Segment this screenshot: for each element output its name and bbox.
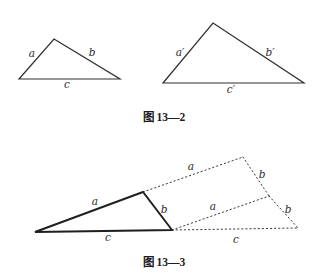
figure-13-2: a b c a′ b′ c′ 图 13—2 [19, 23, 304, 123]
dotted-c-extension-label: c [233, 233, 239, 245]
figure-13-3-caption: 图 13—3 [143, 255, 186, 268]
figures-canvas: a b c a′ b′ c′ 图 13—2 a b c [0, 0, 325, 280]
figure-13-3: a b c a b a b c 图 13—3 [35, 157, 298, 268]
large-triangle-side-b-label: b′ [265, 46, 275, 58]
dotted-a-top-label: a [188, 160, 194, 172]
small-triangle-outline [19, 39, 120, 79]
dotted-side-b-right [269, 196, 298, 228]
figure-13-2-caption: 图 13—2 [143, 110, 186, 123]
small-triangle-side-a-label: a [29, 47, 35, 59]
dotted-side-c-extension [172, 228, 298, 230]
dotted-a-middle-label: a [210, 200, 216, 212]
dotted-side-a-middle [172, 196, 269, 230]
large-triangle-side-a-label: a′ [176, 46, 185, 58]
large-triangle-side-c-label: c′ [227, 83, 236, 95]
solid-triangle-side-b-label: b [161, 203, 168, 215]
solid-triangle-outline [35, 192, 172, 232]
dotted-b-right-label: b [285, 203, 292, 215]
small-triangle-side-b-label: b [89, 46, 96, 58]
solid-triangle-side-c-label: c [105, 231, 111, 243]
small-triangle-side-c-label: c [64, 78, 70, 90]
textbook-figure-page: a b c a′ b′ c′ 图 13—2 a b c [0, 0, 325, 280]
solid-triangle-side-a-label: a [92, 195, 98, 207]
dotted-b-top-label: b [259, 168, 266, 180]
